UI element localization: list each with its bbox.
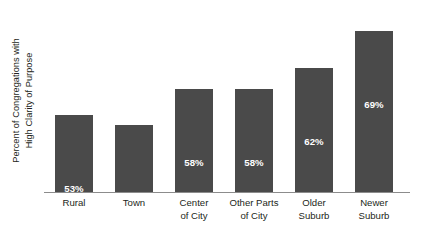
y-axis-title-line-1: Percent of Congregations with [10,38,23,163]
x-label-other-parts-of-city: Other Parts of City [224,197,284,223]
x-axis-line [44,192,410,193]
x-label-line: Newer [344,197,404,210]
bar-newer-suburb: 69% [355,31,393,193]
x-label-line: Suburb [344,210,404,223]
x-label-line: Center [164,197,224,210]
y-axis-title: Percent of Congregations with High Clari… [0,0,44,200]
bar-rural: 53% [55,115,93,193]
bar-value-label: 69% [355,99,393,110]
x-label-line: Town [104,197,164,210]
bar-town: 51% [115,125,153,193]
bar-slot: 62% [284,0,344,193]
bar-slot: 69% [344,0,404,193]
bar-older-suburb: 62% [295,68,333,193]
x-label-line: Suburb [284,210,344,223]
x-label-line: Rural [44,197,104,210]
bar-value-label: 62% [295,136,333,147]
bar-slot: 53% [44,0,104,193]
x-label-line: Other Parts [224,197,284,210]
bar-value-label: 58% [175,157,213,168]
plot-area: 53% 51% 58% 58% 62% [44,0,404,193]
bar-other-parts-of-city: 58% [235,89,273,193]
x-label-newer-suburb: Newer Suburb [344,197,404,223]
bar-slot: 58% [164,0,224,193]
y-axis-title-line-2: High Clarity of Purpose [22,38,35,163]
x-label-rural: Rural [44,197,104,223]
x-label-line: Older [284,197,344,210]
bar-slot: 58% [224,0,284,193]
bar-center-of-city: 58% [175,89,213,193]
bar-slot: 51% [104,0,164,193]
x-label-center-of-city: Center of City [164,197,224,223]
x-label-town: Town [104,197,164,223]
x-label-line: of City [224,210,284,223]
bars-row: 53% 51% 58% 58% 62% [44,0,404,193]
x-label-older-suburb: Older Suburb [284,197,344,223]
bar-value-label: 58% [235,157,273,168]
bar-chart: Percent of Congregations with High Clari… [0,0,442,243]
x-axis-labels: Rural Town Center of City Other Parts of… [44,197,404,223]
x-label-line: of City [164,210,224,223]
